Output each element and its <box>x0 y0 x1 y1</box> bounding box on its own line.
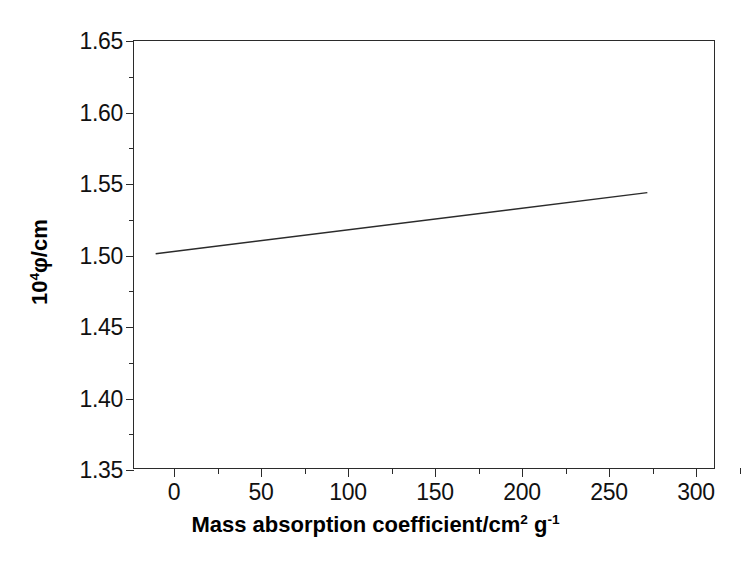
xtick-label-150: 150 <box>416 479 453 506</box>
xtick-100 <box>348 468 349 477</box>
xtick-minor-75 <box>305 468 306 474</box>
series-line-fit <box>156 193 648 254</box>
ytick-minor-1-625 <box>129 77 134 78</box>
ytick-minor-1-525 <box>129 220 134 221</box>
y-axis-title-exponent: 4 <box>27 273 42 281</box>
ytick-minor-1-375 <box>129 434 134 435</box>
ytick-label-1-40: 1.40 <box>79 385 123 412</box>
xtick-50 <box>261 468 262 477</box>
ytick-minor-1-475 <box>129 291 134 292</box>
plot-area: 1.65 1.60 1.55 1.50 1.45 1.40 1.35 0 50 … <box>133 40 715 469</box>
xtick-label-50: 50 <box>249 479 274 506</box>
ytick-1-60 <box>126 113 134 114</box>
ytick-1-65 <box>126 41 134 42</box>
x-axis-title-exponent-mass: -1 <box>547 512 559 527</box>
ytick-1-35 <box>126 470 134 471</box>
x-axis-title-main: Mass absorption coefficient/cm <box>191 512 520 537</box>
ytick-minor-1-575 <box>129 148 134 149</box>
x-axis-title: Mass absorption coefficient/cm2 g-1 <box>0 512 751 538</box>
xtick-label-300: 300 <box>677 479 714 506</box>
xtick-label-200: 200 <box>503 479 540 506</box>
y-axis-title-suffix: φ/cm <box>27 219 52 273</box>
xtick-minor-25 <box>218 468 219 474</box>
ytick-1-55 <box>126 184 134 185</box>
xtick-label-0: 0 <box>168 479 181 506</box>
xtick-150 <box>435 468 436 477</box>
xtick-minor-125 <box>392 468 393 474</box>
y-axis-title-prefix: 10 <box>27 281 52 305</box>
xtick-minor-275 <box>653 468 654 474</box>
xtick-minor-175 <box>479 468 480 474</box>
xtick-label-100: 100 <box>329 479 366 506</box>
x-axis-title-exponent-area: 2 <box>520 512 528 527</box>
xtick-300 <box>696 468 697 477</box>
data-line-layer <box>134 41 714 468</box>
y-axis-title: 104φ/cm <box>27 219 53 305</box>
xtick-200 <box>522 468 523 477</box>
ytick-label-1-35: 1.35 <box>79 457 123 484</box>
xtick-minor-225 <box>566 468 567 474</box>
ytick-1-50 <box>126 256 134 257</box>
ytick-minor-1-425 <box>129 363 134 364</box>
xtick-label-250: 250 <box>590 479 627 506</box>
ytick-1-45 <box>126 327 134 328</box>
x-axis-title-mid: g <box>528 512 548 537</box>
ytick-label-1-55: 1.55 <box>79 171 123 198</box>
xtick-250 <box>609 468 610 477</box>
ytick-label-1-50: 1.50 <box>79 242 123 269</box>
ytick-1-40 <box>126 399 134 400</box>
ytick-label-1-60: 1.60 <box>79 99 123 126</box>
ytick-label-1-65: 1.65 <box>79 28 123 55</box>
xtick-0 <box>174 468 175 477</box>
ytick-label-1-45: 1.45 <box>79 314 123 341</box>
xtick-minor-325 <box>740 468 741 474</box>
chart-figure: 1.65 1.60 1.55 1.50 1.45 1.40 1.35 0 50 … <box>0 0 751 579</box>
